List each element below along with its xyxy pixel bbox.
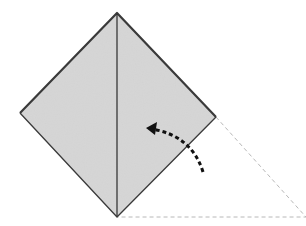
diagram-canvas: [0, 0, 306, 226]
origami-diagram: [0, 0, 306, 226]
paper-diamond: [20, 13, 216, 217]
